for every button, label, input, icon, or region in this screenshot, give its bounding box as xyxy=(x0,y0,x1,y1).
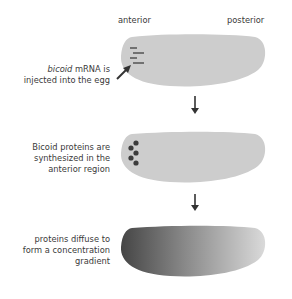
caption-step-3: proteins diffuse to form a concentration… xyxy=(0,234,110,267)
caption-text: form a concentration xyxy=(0,245,110,256)
caption-text: injected into the egg xyxy=(0,75,110,86)
caption-text: mRNA is xyxy=(72,64,110,74)
gene-name: bicoid xyxy=(48,64,73,74)
caption-text: anterior region xyxy=(0,164,110,175)
down-arrow-icon xyxy=(191,194,199,211)
egg-step-3 xyxy=(121,226,265,277)
posterior-label: posterior xyxy=(227,15,264,26)
caption-text: proteins diffuse to xyxy=(0,234,110,245)
down-arrow-icon xyxy=(191,96,199,114)
caption-text: Bicoid proteins are xyxy=(0,142,110,153)
caption-step-1: bicoid mRNA is injected into the egg xyxy=(0,64,110,86)
egg-step-2 xyxy=(121,132,265,183)
egg-step-1 xyxy=(121,34,265,86)
caption-text: gradient xyxy=(0,256,110,267)
anterior-label: anterior xyxy=(118,15,151,26)
caption-step-2: Bicoid proteins are synthesized in the a… xyxy=(0,142,110,175)
caption-text: synthesized in the xyxy=(0,153,110,164)
